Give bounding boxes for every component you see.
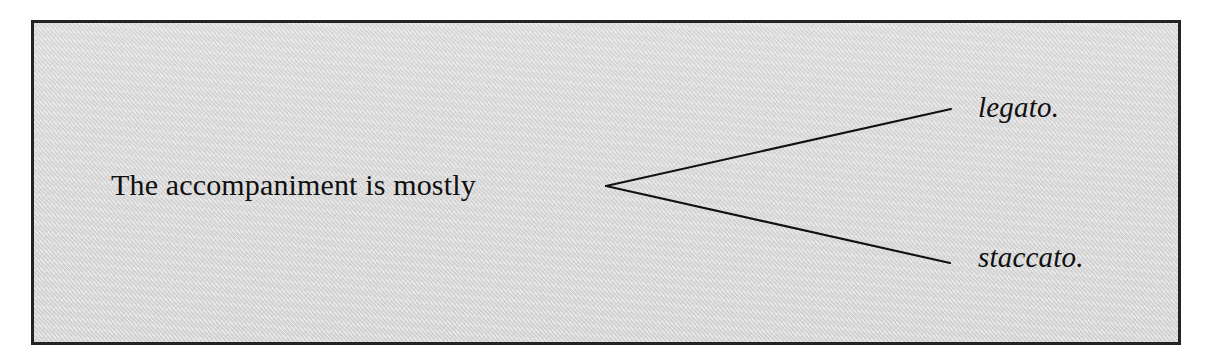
brace-upper-arm bbox=[606, 109, 951, 186]
branch-label-staccato: staccato. bbox=[978, 243, 1084, 272]
branch-label-legato: legato. bbox=[978, 93, 1059, 122]
figure-frame: The accompaniment is mostly legato. stac… bbox=[31, 20, 1181, 345]
stem-text: The accompaniment is mostly bbox=[111, 170, 476, 200]
brace-lower-arm bbox=[606, 186, 950, 263]
figure-content: The accompaniment is mostly legato. stac… bbox=[34, 23, 1178, 342]
